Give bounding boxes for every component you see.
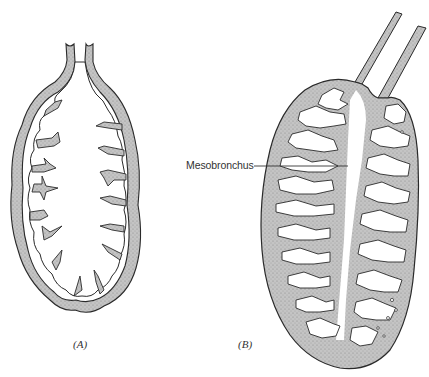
panel-a-label: (A) (73, 338, 87, 350)
lung-diagram (0, 0, 429, 377)
lung-sac-b (261, 12, 426, 369)
lung-sac-a (11, 44, 141, 312)
panel-b-label: (B) (238, 338, 252, 350)
mesobronchus-label: Mesobronchus (186, 159, 254, 171)
